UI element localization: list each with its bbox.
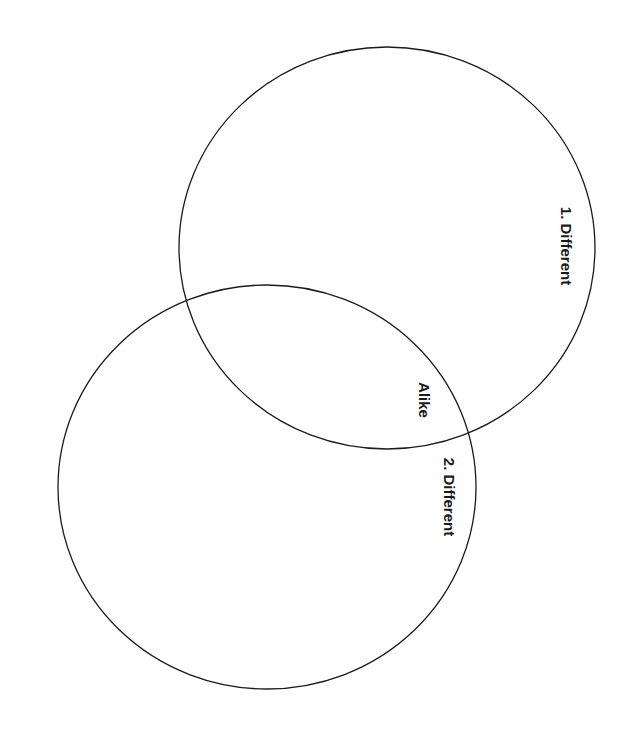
label-different-2: 2. Different	[441, 458, 458, 536]
label-alike: Alike	[416, 382, 433, 418]
circle-2-different	[58, 285, 476, 689]
label-different-1: 1. Different	[558, 207, 575, 285]
circle-1-different	[179, 47, 595, 449]
venn-diagram-canvas	[0, 0, 628, 731]
